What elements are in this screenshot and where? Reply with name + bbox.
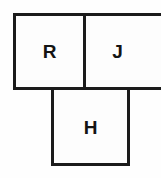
square-cell-j[interactable]: J xyxy=(83,13,161,90)
square-cell-label-h: H xyxy=(84,118,98,137)
square-cell-label-r: R xyxy=(43,42,57,61)
diagram-canvas: R J H xyxy=(0,0,161,178)
square-cell-r[interactable]: R xyxy=(13,13,86,90)
square-cell-h[interactable]: H xyxy=(51,87,130,166)
square-cell-label-j: J xyxy=(112,42,123,61)
